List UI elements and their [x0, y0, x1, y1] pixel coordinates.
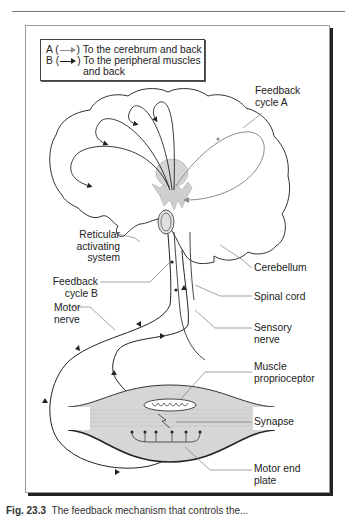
label-cerebellum: Cerebellum: [254, 262, 307, 274]
label-spinal-cord: Spinal cord: [254, 291, 306, 303]
legend-item-a: A () To the cerebrum and back: [46, 44, 202, 55]
muscle-proprioceptor: [144, 399, 196, 411]
legend-item-b-cont: and back: [83, 66, 125, 77]
legend-box: A () To the cerebrum and back B () To th…: [40, 39, 205, 81]
label-feedback-cycle-b: Feedbackcycle B: [50, 276, 98, 299]
label-reticular-activating-system: Reticularactivatingsystem: [58, 229, 120, 264]
label-sensory-nerve: Sensorynerve: [254, 322, 292, 345]
black-arrow-icon: [60, 58, 76, 64]
label-motor-nerve: Motornerve: [54, 302, 80, 325]
reticular-formation: [158, 210, 174, 234]
legend-item-b: B () To the peripheral muscles: [46, 55, 201, 66]
gray-arrow-icon: [60, 47, 76, 53]
label-muscle-proprioceptor: Muscleproprioceptor: [254, 361, 315, 384]
spinal-cord-line: [174, 232, 205, 360]
muscle-belly: [68, 385, 275, 462]
label-motor-end-plate: Motor endplate: [254, 463, 300, 486]
label-feedback-cycle-a: Feedbackcycle A: [255, 85, 300, 108]
label-synapse: Synapse: [254, 416, 294, 428]
figure-caption: Fig. 23.3 The feedback mechanism that co…: [6, 505, 248, 516]
